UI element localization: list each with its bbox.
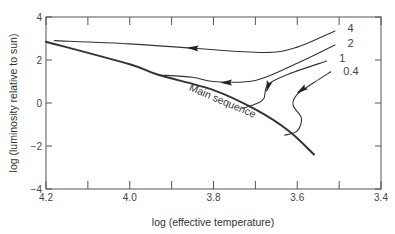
- x-axis-title: log (effective temperature): [152, 216, 274, 228]
- hr-diagram-chart: 4.24.03.83.63.4420−2−4 Main sequence4210…: [0, 0, 395, 234]
- y-tick-label: 0: [36, 98, 42, 109]
- y-tick-label: 4: [36, 12, 42, 23]
- main-sequence-line: [46, 42, 314, 155]
- x-tick-label: 3.6: [290, 192, 304, 203]
- x-tick-label: 4.0: [123, 192, 137, 203]
- mass-label: 1: [339, 52, 345, 64]
- mass-label: 2: [348, 37, 354, 49]
- track-2: [159, 45, 335, 82]
- x-tick-label: 3.4: [374, 192, 388, 203]
- mass-label: 0.4: [343, 65, 358, 77]
- track-annotations: Main sequence4210.4: [188, 22, 359, 120]
- y-tick-label: −2: [31, 141, 43, 152]
- track-1: [243, 61, 327, 108]
- track-0-4: [285, 72, 331, 135]
- main-sequence-label: Main sequence: [188, 81, 258, 120]
- y-tick-label: −4: [31, 184, 43, 195]
- mass-label: 4: [348, 22, 354, 34]
- y-axis-title: log (luminosity relative to sun): [7, 34, 19, 173]
- x-tick-label: 3.8: [207, 192, 221, 203]
- y-tick-label: 2: [36, 55, 42, 66]
- axis-ticks: 4.24.03.83.63.4420−2−4: [31, 12, 389, 204]
